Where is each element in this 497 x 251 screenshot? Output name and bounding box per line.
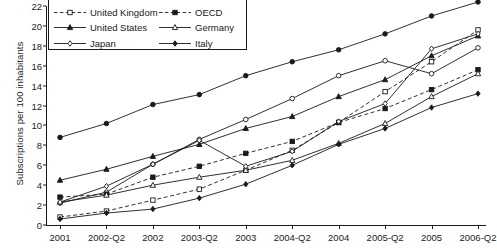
x-tick-label: 2006-Q2 — [460, 232, 497, 243]
legend-swatch-open-circle — [158, 0, 192, 2]
marker-filled-diamond — [476, 91, 480, 96]
x-tick-label: 2005-Q2 — [367, 232, 404, 243]
legend-swatch-open-triangle — [158, 22, 192, 33]
marker-open-circle — [243, 117, 248, 122]
marker-filled-square — [244, 151, 248, 155]
x-tick-label: 2003 — [235, 232, 256, 243]
x-tick-label: 2003-Q2 — [181, 232, 218, 243]
legend-item-germany[interactable]: Germany — [158, 20, 247, 36]
legend-item-oecd[interactable]: OECD — [158, 5, 247, 21]
marker-open-triangle — [382, 121, 387, 126]
series-japan — [58, 31, 480, 205]
legend-swatch-filled-circle — [53, 0, 87, 2]
marker-filled-circle — [336, 48, 341, 53]
x-tick-label: 2002 — [142, 232, 163, 243]
series-united-kingdom — [58, 28, 480, 220]
marker-open-square — [383, 89, 387, 93]
series-italy — [58, 91, 480, 222]
marker-open-circle — [383, 58, 388, 63]
legend: CanadaFranceUnited KingdomOECDUnited Sta… — [48, 0, 247, 50]
series-line — [60, 34, 478, 202]
marker-open-square — [68, 10, 72, 14]
marker-open-circle — [476, 46, 481, 51]
x-tick-label: 2004-Q2 — [274, 232, 311, 243]
legend-label: United Kingdom — [90, 7, 158, 18]
legend-item-japan[interactable]: Japan — [53, 36, 158, 51]
legend-swatch-filled-triangle — [53, 22, 87, 33]
marker-open-diamond — [104, 183, 108, 188]
marker-filled-diamond — [197, 195, 201, 200]
marker-filled-circle — [104, 121, 109, 126]
marker-filled-square — [173, 10, 177, 14]
legend-grid: CanadaFranceUnited KingdomOECDUnited Sta… — [49, 0, 246, 49]
marker-filled-square — [383, 106, 387, 110]
marker-open-square — [429, 60, 433, 64]
legend-swatch-filled-diamond — [158, 38, 192, 49]
legend-swatch-open-diamond — [53, 38, 87, 49]
legend-label: United States — [90, 22, 147, 33]
legend-label: Japan — [90, 38, 116, 49]
legend-label: Germany — [195, 22, 234, 33]
marker-filled-circle — [243, 73, 248, 78]
marker-filled-circle — [290, 59, 295, 64]
legend-label: Italy — [195, 38, 212, 49]
marker-open-square — [151, 198, 155, 202]
legend-label: Canada — [90, 0, 123, 2]
marker-filled-circle — [476, 0, 481, 4]
marker-filled-diamond — [173, 41, 177, 46]
marker-filled-square — [429, 87, 433, 91]
legend-item-italy[interactable]: Italy — [158, 36, 247, 51]
marker-filled-circle — [429, 14, 434, 19]
marker-filled-circle — [383, 32, 388, 37]
series-line — [60, 70, 478, 197]
series-line — [60, 48, 478, 203]
marker-open-circle — [336, 73, 341, 78]
marker-open-circle — [429, 71, 434, 76]
marker-filled-circle — [151, 102, 156, 107]
series-germany — [57, 71, 480, 204]
marker-filled-diamond — [290, 163, 294, 168]
x-tick-label: 2004 — [328, 232, 349, 243]
marker-filled-circle — [58, 135, 63, 140]
marker-filled-square — [151, 175, 155, 179]
marker-open-diamond — [68, 41, 72, 46]
marker-filled-square — [290, 139, 294, 143]
marker-filled-triangle — [382, 77, 387, 82]
marker-filled-diamond — [244, 181, 248, 186]
marker-filled-square — [197, 164, 201, 168]
x-tick-label: 2005 — [421, 232, 442, 243]
marker-filled-diamond — [429, 105, 433, 110]
marker-open-triangle — [429, 94, 434, 99]
series-france — [58, 46, 481, 206]
series-line — [60, 94, 478, 219]
y-axis-title: Subscriptions per 100 inhabitants — [14, 9, 25, 219]
marker-open-square — [197, 187, 201, 191]
legend-swatch-filled-square — [158, 7, 192, 18]
legend-label: France — [195, 0, 225, 2]
legend-item-united-states[interactable]: United States — [53, 20, 158, 36]
marker-open-circle — [290, 96, 295, 101]
series-line — [60, 30, 478, 217]
x-tick-label: 2002-Q2 — [88, 232, 125, 243]
x-tick-label: 2001 — [49, 232, 70, 243]
marker-filled-diamond — [383, 126, 387, 131]
legend-item-united-kingdom[interactable]: United Kingdom — [53, 5, 158, 21]
legend-swatch-open-square — [53, 7, 87, 18]
marker-filled-diamond — [151, 206, 155, 211]
marker-filled-circle — [197, 92, 202, 97]
legend-label: OECD — [195, 7, 222, 18]
